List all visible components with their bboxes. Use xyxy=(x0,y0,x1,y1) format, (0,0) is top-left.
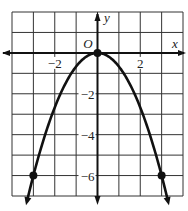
x-tick-label: −2 xyxy=(48,56,62,71)
point-marker xyxy=(158,172,166,180)
parabola-graph: xyO−22−2−4−6 xyxy=(0,0,188,211)
y-tick-label: −4 xyxy=(81,128,95,143)
y-axis-arrow-down-icon xyxy=(95,196,101,205)
x-axis-arrow-left-icon xyxy=(2,50,10,56)
curve-arrow-icon xyxy=(24,197,31,206)
x-axis-label: x xyxy=(171,36,178,51)
origin-label: O xyxy=(83,36,93,51)
y-axis-arrow-up-icon xyxy=(95,12,101,21)
y-tick-label: −2 xyxy=(81,87,95,102)
axis-labels: xyO−22−2−4−6 xyxy=(46,10,178,184)
x-tick-label: 2 xyxy=(137,56,144,71)
y-axis-label: y xyxy=(102,10,110,25)
y-tick-label: −6 xyxy=(81,169,95,184)
x-axis-arrow-right-icon xyxy=(178,50,186,56)
point-marker xyxy=(94,49,102,57)
point-marker xyxy=(29,172,37,180)
curve-arrow-icon xyxy=(164,197,171,206)
